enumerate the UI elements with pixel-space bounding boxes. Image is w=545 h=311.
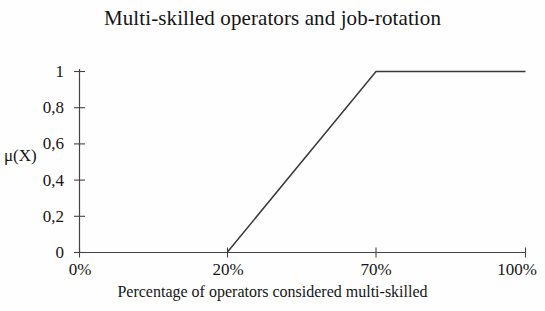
membership-function-line — [228, 72, 526, 253]
y-tick-label-0-4: 0,4 — [22, 172, 64, 189]
x-tick-label-70pct: 70% — [344, 261, 408, 278]
x-tick-label-20pct: 20% — [196, 261, 260, 278]
plot-area: 1 0,8 0,6 0,4 0,2 0 0% 20% 70% 100% μ(X)… — [0, 0, 545, 311]
x-tick-label-0pct: 0% — [49, 261, 111, 278]
y-axis-title: μ(X) — [4, 146, 52, 166]
y-tick-label-1: 1 — [22, 63, 64, 80]
x-axis-title: Percentage of operators considered multi… — [0, 283, 545, 301]
y-tick-label-0-8: 0,8 — [22, 99, 64, 116]
x-tick-label-100pct: 100% — [489, 261, 545, 278]
y-tick-label-0: 0 — [22, 244, 64, 261]
chart-figure: Multi-skilled operators and job-rotation — [0, 0, 545, 311]
y-tick-label-0-2: 0,2 — [22, 208, 64, 225]
